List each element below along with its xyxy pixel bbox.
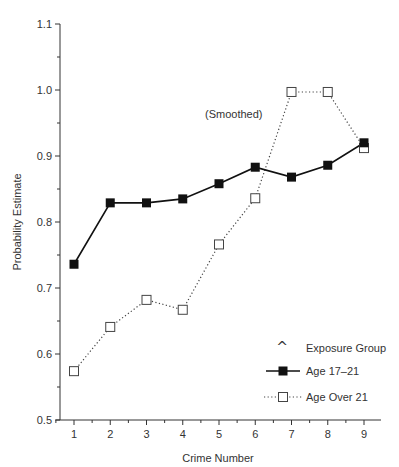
y-tick-label: 1.1 <box>37 18 52 30</box>
filled-square-marker <box>215 179 224 188</box>
x-tick-label: 7 <box>288 428 294 440</box>
legend-open-square-icon <box>279 393 288 402</box>
x-tick-label: 9 <box>361 428 367 440</box>
filled-square-marker <box>287 173 296 182</box>
open-square-marker <box>215 240 224 249</box>
x-tick-label: 6 <box>252 428 258 440</box>
legend-title: Exposure Group <box>306 342 386 354</box>
filled-square-marker <box>360 138 369 147</box>
filled-square-marker <box>178 194 187 203</box>
open-square-marker <box>178 305 187 314</box>
y-tick-label: 1.0 <box>37 84 52 96</box>
line-chart: 0.50.60.70.80.91.01.1123456789 (Smoothed… <box>0 0 399 467</box>
y-tick-label: 0.9 <box>37 150 52 162</box>
y-tick-label: 0.8 <box>37 216 52 228</box>
y-tick-label: 0.6 <box>37 348 52 360</box>
filled-square-marker <box>323 161 332 170</box>
x-tick-label: 2 <box>107 428 113 440</box>
open-square-marker <box>106 322 115 331</box>
x-tick-label: 5 <box>216 428 222 440</box>
legend: ^ Exposure Group Age 17–21 Age Over 21 <box>264 339 386 403</box>
x-tick-label: 4 <box>180 428 186 440</box>
open-square-marker <box>251 194 260 203</box>
open-square-marker <box>70 367 79 376</box>
legend-filled-square-icon <box>279 367 288 376</box>
x-tick-label: 1 <box>71 428 77 440</box>
filled-square-marker <box>106 198 115 207</box>
filled-square-marker <box>142 198 151 207</box>
legend-series-2-label: Age Over 21 <box>306 391 368 403</box>
filled-square-marker <box>70 260 79 269</box>
open-square-marker <box>323 87 332 96</box>
x-tick-label: 3 <box>143 428 149 440</box>
y-tick-label: 0.7 <box>37 282 52 294</box>
annotation-smoothed: (Smoothed) <box>205 108 262 120</box>
x-axis-title: Crime Number <box>182 452 254 464</box>
legend-series-1-label: Age 17–21 <box>306 365 359 377</box>
series-group <box>70 87 369 375</box>
legend-title-caret-icon: ^ <box>276 339 288 355</box>
filled-square-marker <box>251 163 260 172</box>
x-tick-label: 8 <box>325 428 331 440</box>
open-square-marker <box>142 295 151 304</box>
y-axis-title: Probability Estimate <box>11 173 23 270</box>
series-age-over-21-line <box>74 92 364 371</box>
y-tick-label: 0.5 <box>37 414 52 426</box>
open-square-marker <box>287 87 296 96</box>
